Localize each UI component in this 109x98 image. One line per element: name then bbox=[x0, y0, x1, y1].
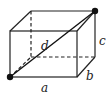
front-face bbox=[10, 31, 77, 77]
vertex-dot-top-back-right bbox=[92, 8, 98, 14]
label-length: a bbox=[41, 81, 48, 95]
vertex-dot-bottom-front-left bbox=[7, 74, 13, 80]
space-diagonal bbox=[10, 11, 95, 77]
edge-top-left-depth bbox=[10, 11, 31, 31]
label-height: c bbox=[99, 34, 106, 48]
edge-top-right-depth bbox=[77, 11, 95, 31]
label-width: b bbox=[86, 69, 94, 83]
label-diagonal: d bbox=[41, 39, 49, 53]
box-diagram: d c b a bbox=[0, 0, 109, 98]
